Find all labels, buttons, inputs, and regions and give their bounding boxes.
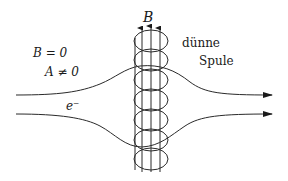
coil-label-line1: dünne bbox=[182, 36, 220, 50]
outside-field-label: B = 0 bbox=[32, 46, 68, 60]
electron-label: e⁻ bbox=[66, 99, 79, 113]
coil-label-line2: Spule bbox=[199, 54, 234, 68]
aharonov-bohm-diagram: B B = 0 A ≠ 0 dünne Spule e⁻ bbox=[0, 0, 288, 181]
outside-potential-label: A ≠ 0 bbox=[44, 65, 79, 79]
field-label-b: B bbox=[142, 9, 153, 25]
